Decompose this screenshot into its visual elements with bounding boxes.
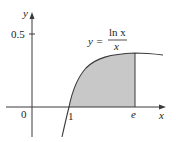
function-label-numerator: ln x xyxy=(109,26,126,38)
origin-label: 0 xyxy=(21,108,27,120)
x-tick-1-label: 1 xyxy=(68,110,74,122)
y-tick-label: 0.5 xyxy=(11,28,25,40)
function-label-denominator: x xyxy=(113,40,119,52)
graph-figure: y 0.5 0 1 e x y = ln x x xyxy=(0,0,176,142)
x-axis-label: x xyxy=(158,109,164,121)
y-axis-label: y xyxy=(22,7,28,19)
function-label-lhs: y = xyxy=(87,35,103,47)
y-axis-arrow-icon xyxy=(30,12,35,19)
shaded-region xyxy=(69,53,135,107)
x-tick-e-label: e xyxy=(131,108,136,120)
